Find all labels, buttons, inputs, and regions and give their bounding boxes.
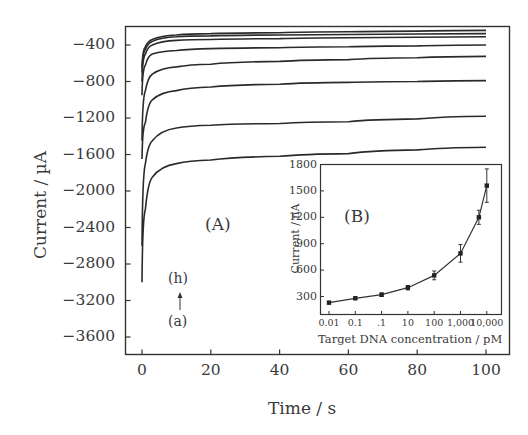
data-point-marker — [485, 183, 489, 187]
main-x-tick-label: 80 — [397, 361, 437, 379]
main-y-tick-label: −400 — [45, 35, 115, 53]
main-x-tick-label: 0 — [122, 361, 162, 379]
current-time-curve — [142, 81, 486, 160]
main-x-tick-label: 20 — [191, 361, 231, 379]
main-y-tick-label: −3200 — [45, 291, 115, 309]
inset-y-tick-label: 1800 — [283, 158, 317, 171]
panel-label-b: (B) — [344, 206, 370, 226]
inset-y-tick-label: 1200 — [283, 210, 317, 223]
data-point-marker — [379, 293, 383, 297]
main-x-ticks — [142, 350, 486, 355]
inset-x-axis-label: Target DNA concentration / pM — [318, 332, 502, 346]
inset-y-tick-label: 300 — [283, 290, 317, 303]
data-point-marker — [458, 251, 462, 255]
arrow-head-icon — [178, 292, 183, 298]
main-x-tick-label: 60 — [328, 361, 368, 379]
main-y-tick-label: −1200 — [45, 108, 115, 126]
data-point-marker — [406, 286, 410, 290]
current-time-curve — [142, 37, 486, 82]
data-point-marker — [432, 273, 436, 277]
main-y-tick-label: −2800 — [45, 254, 115, 272]
main-x-axis-label: Time / s — [268, 398, 336, 418]
main-y-axis-label: Current / µA — [30, 145, 50, 265]
inset-y-tick-label: 600 — [283, 263, 317, 276]
inset-x-tick-label: 10,000 — [467, 317, 507, 328]
main-x-tick-label: 100 — [466, 361, 506, 379]
data-point-marker — [477, 215, 481, 219]
main-y-tick-label: −800 — [45, 72, 115, 90]
data-point-marker — [327, 300, 331, 304]
main-y-tick-label: −3600 — [45, 327, 115, 345]
curve-label-a: (a) — [168, 313, 187, 329]
main-y-tick-label: −1600 — [45, 145, 115, 163]
curve-label-h: (h) — [168, 270, 188, 286]
main-y-ticks — [126, 45, 131, 337]
main-y-tick-label: −2400 — [45, 218, 115, 236]
panel-label-a: (A) — [205, 214, 231, 234]
current-time-curve — [142, 56, 486, 140]
inset-y-tick-label: 900 — [283, 237, 317, 250]
inset-y-tick-label: 1500 — [283, 184, 317, 197]
main-x-tick-label: 40 — [260, 361, 300, 379]
inset-plot-frame — [321, 165, 502, 315]
main-y-tick-label: −2000 — [45, 181, 115, 199]
data-point-marker — [353, 296, 357, 300]
